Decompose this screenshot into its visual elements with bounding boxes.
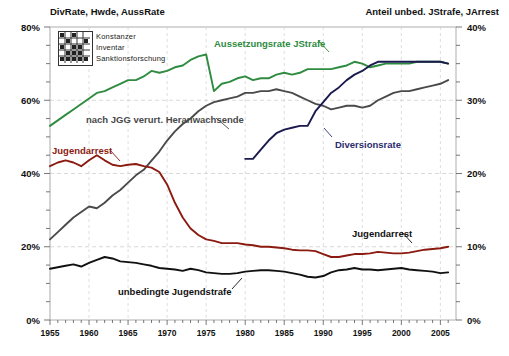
chart-root: DivRate, Hwde, AussRate Anteil unbed. JS…: [0, 0, 509, 356]
x-tick-label: 2000: [392, 328, 411, 338]
x-tick-label: 1980: [236, 328, 255, 338]
x-tick-label: 1985: [275, 328, 294, 338]
label-unbedingte-jugendstrafe: unbedingte Jugendstrafe: [118, 286, 231, 297]
kis-logo: Konstanzer Inventar Sanktionsforschung: [58, 31, 194, 65]
x-tick-label: 1955: [41, 328, 60, 338]
x-tick-label: 1970: [158, 328, 177, 338]
label-heranwachsende: nach JGG verurt. Heranwachsende: [86, 114, 244, 125]
kis-logo-text: Konstanzer Inventar Sanktionsforschung: [96, 31, 165, 64]
x-tick-label: 1995: [353, 328, 372, 338]
y-axis-left-tick: 60%: [21, 95, 41, 106]
x-tick-label: 1965: [119, 328, 138, 338]
y-axis-right-tick: 10%: [467, 241, 487, 252]
y-axis-left-tick: 40%: [21, 168, 41, 179]
x-tick-label: 1975: [197, 328, 216, 338]
y-axis-left-tick: 80%: [21, 22, 41, 33]
kis-logo-line2: Inventar: [96, 42, 165, 53]
kis-logo-line1: Konstanzer: [96, 31, 165, 42]
x-tick-label: 1960: [80, 328, 99, 338]
x-tick-label: 2005: [431, 328, 450, 338]
x-tick-label: 1990: [314, 328, 333, 338]
y-axis-right-tick: 40%: [467, 22, 487, 33]
y-axis-right-tick: 0%: [467, 315, 481, 326]
label-jugendarrest-left: Jugendarrest: [52, 145, 112, 156]
label-diversionsrate: Diversionsrate: [335, 139, 401, 150]
label-aussetzungsrate: Aussetzungsrate JStrafe: [214, 38, 325, 49]
kis-logo-icon: [58, 31, 93, 66]
y-axis-right-tick: 30%: [467, 95, 487, 106]
label-jugendarrest-right: Jugendarrest: [352, 228, 412, 239]
kis-logo-line3: Sanktionsforschung: [96, 53, 165, 64]
y-axis-left-tick: 20%: [21, 241, 41, 252]
y-axis-right-tick: 20%: [467, 168, 487, 179]
y-axis-left-tick: 0%: [26, 315, 40, 326]
